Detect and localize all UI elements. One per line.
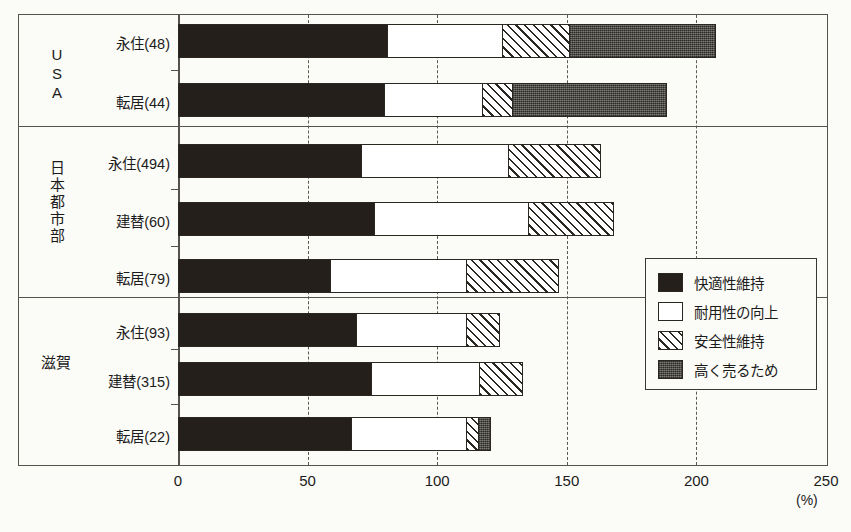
bar-segment-safety [466, 313, 500, 347]
bar-segment-durability [371, 362, 480, 396]
x-tick-label: 50 [278, 472, 338, 489]
bar-segment-durability [356, 313, 467, 347]
gridline-200 [696, 15, 697, 465]
bar-segment-safety [482, 83, 513, 117]
stacked-bar-chart: USA 日本都市部 滋賀 永住(48)転居(44)永住(494)建替(60)転居… [0, 0, 851, 532]
bar-segment-safety [508, 144, 601, 178]
stacked-bar [178, 144, 601, 178]
legend-item: 高く売るため [658, 355, 816, 384]
chart-frame [18, 14, 828, 466]
y-axis-line [178, 14, 180, 466]
bar-segment-durability [351, 417, 468, 451]
black-swatch [658, 273, 683, 292]
bar-segment-comfort [178, 202, 375, 236]
bar-segment-comfort [178, 259, 331, 293]
stacked-bar [178, 362, 523, 396]
legend-label: 快適性維持 [694, 272, 764, 293]
x-tick-label: 100 [407, 472, 467, 489]
group-label-shiga: 滋賀 [30, 355, 82, 372]
legend-label: 耐用性の向上 [694, 301, 778, 322]
x-tick-label: 250 [796, 472, 851, 489]
axis-tick-stub [171, 404, 180, 405]
stacked-bar [178, 202, 614, 236]
row-label: 転居(22) [82, 425, 170, 446]
hatched-swatch [658, 331, 683, 350]
group-label-japan-urban: 日本都市部 [30, 160, 82, 249]
bar-segment-comfort [178, 417, 352, 451]
row-label: 建替(315) [82, 370, 170, 391]
stacked-bar [178, 24, 716, 58]
stacked-bar [178, 259, 559, 293]
axis-tick-stub [171, 189, 180, 190]
bar-segment-safety [502, 24, 569, 58]
group-label-usa: USA [30, 46, 82, 107]
bar-segment-durability [387, 24, 504, 58]
stacked-bar [178, 417, 491, 451]
legend-label: 高く売るため [694, 359, 778, 380]
chart-legend: 快適性維持耐用性の向上安全性維持高く売るため [645, 258, 817, 390]
bar-segment-durability [384, 83, 482, 117]
legend-item: 快適性維持 [658, 268, 816, 297]
bar-segment-resale [512, 83, 668, 117]
row-label: 転居(44) [82, 91, 170, 112]
legend-label: 安全性維持 [694, 330, 764, 351]
bar-segment-comfort [178, 313, 357, 347]
bar-segment-resale [569, 24, 717, 58]
bar-segment-durability [330, 259, 467, 293]
bar-segment-safety [479, 362, 523, 396]
stacked-bar [178, 313, 500, 347]
axis-tick-stub [171, 349, 180, 350]
group-label-text: 日本都市部 [48, 160, 65, 245]
white-swatch [658, 302, 683, 321]
bar-segment-comfort [178, 362, 372, 396]
group-label-text: USA [48, 46, 65, 103]
bar-segment-durability [361, 144, 509, 178]
row-label: 永住(48) [82, 32, 170, 53]
group-separator [18, 126, 828, 127]
bar-segment-comfort [178, 24, 388, 58]
bar-segment-resale [478, 417, 491, 451]
legend-item: 耐用性の向上 [658, 297, 816, 326]
bar-segment-safety [528, 202, 614, 236]
row-label: 永住(93) [82, 321, 170, 342]
row-label: 永住(494) [82, 152, 170, 173]
x-tick-label: 0 [148, 472, 208, 489]
bar-segment-safety [466, 259, 559, 293]
axis-tick-stub [171, 70, 180, 71]
stacked-bar [178, 83, 667, 117]
group-label-text: 滋賀 [41, 354, 72, 371]
x-tick-label: 200 [666, 472, 726, 489]
row-label: 転居(79) [82, 267, 170, 288]
bar-segment-durability [374, 202, 530, 236]
x-tick-label: 150 [537, 472, 597, 489]
legend-item: 安全性維持 [658, 326, 816, 355]
bar-segment-comfort [178, 144, 362, 178]
row-label: 建替(60) [82, 210, 170, 231]
gray-swatch [658, 360, 683, 379]
bar-segment-comfort [178, 83, 385, 117]
axis-tick-stub [171, 246, 180, 247]
x-axis-unit: (%) [796, 492, 818, 508]
